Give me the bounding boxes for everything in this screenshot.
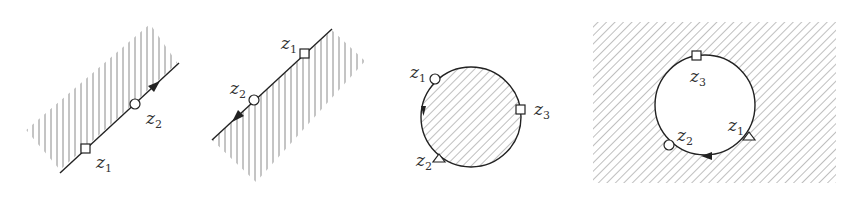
panel-3: z1 z2 z3 bbox=[409, 62, 550, 173]
z3-square-marker bbox=[516, 105, 525, 114]
label-z3: z3 bbox=[533, 99, 550, 122]
label-z2: z2 bbox=[415, 150, 432, 173]
z3-square-marker bbox=[692, 51, 701, 60]
shaded-half-plane bbox=[26, 22, 178, 172]
z2-circle-marker bbox=[664, 140, 674, 150]
z1-square-marker bbox=[300, 49, 309, 58]
label-z2: z2 bbox=[229, 78, 246, 101]
z2-circle-marker bbox=[130, 99, 140, 109]
panel-2: z1 z2 bbox=[212, 29, 366, 184]
z2-circle-marker bbox=[249, 95, 259, 105]
panel-1: z1 z2 bbox=[26, 22, 179, 175]
label-z1: z1 bbox=[280, 33, 297, 56]
label-z1: z1 bbox=[409, 62, 426, 85]
figure-canvas: z1 z2 z1 z2 z1 z2 z3 bbox=[0, 0, 855, 201]
z1-square-marker bbox=[81, 144, 90, 153]
panel-4: z3 z1 z2 bbox=[593, 22, 836, 183]
label-z2: z2 bbox=[145, 108, 162, 131]
z1-circle-marker bbox=[430, 74, 440, 84]
label-z1: z1 bbox=[95, 152, 112, 175]
